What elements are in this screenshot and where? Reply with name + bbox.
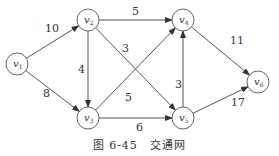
edge-weight: 10 bbox=[45, 22, 59, 35]
edge-weight: 8 bbox=[43, 87, 50, 100]
edge-v1-v3 bbox=[26, 71, 79, 112]
edge-weight: 3 bbox=[175, 78, 182, 91]
node-v5: v5 bbox=[172, 107, 194, 129]
graph-canvas: 1085435631117 v1v2v3v4v5v6 bbox=[0, 0, 279, 156]
edge-weight: 6 bbox=[136, 121, 143, 134]
node-v6: v6 bbox=[247, 71, 269, 93]
node-v4: v4 bbox=[172, 9, 194, 31]
edge-weight: 3 bbox=[122, 42, 129, 55]
node-v2: v2 bbox=[77, 9, 99, 31]
edge-weight: 11 bbox=[230, 34, 244, 47]
figure-title: 交通网 bbox=[150, 139, 186, 152]
edge-weight: 17 bbox=[231, 96, 245, 109]
edge-weight: 5 bbox=[125, 91, 132, 104]
edge-weight: 5 bbox=[132, 5, 139, 18]
figure-caption: 图 6-45 交通网 bbox=[0, 136, 279, 152]
edge-weight: 4 bbox=[78, 63, 85, 76]
figure-number: 图 6-45 bbox=[93, 139, 138, 152]
node-v1: v1 bbox=[6, 53, 28, 75]
node-v3: v3 bbox=[77, 107, 99, 129]
